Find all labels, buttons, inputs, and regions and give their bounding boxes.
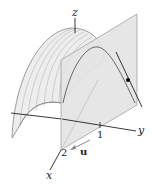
diagram-canvas: z y 1 x 2 u bbox=[0, 0, 152, 185]
x-tick-label: 2 bbox=[61, 147, 67, 158]
u-arrowhead-icon bbox=[70, 145, 76, 150]
x-axis bbox=[50, 150, 61, 170]
y-tick-label: 1 bbox=[97, 129, 103, 140]
tangent-point bbox=[126, 78, 130, 82]
u-vector-label: u bbox=[80, 146, 87, 157]
x-axis-label: x bbox=[46, 169, 53, 182]
y-axis-label: y bbox=[137, 124, 145, 137]
z-axis-label: z bbox=[71, 6, 78, 19]
